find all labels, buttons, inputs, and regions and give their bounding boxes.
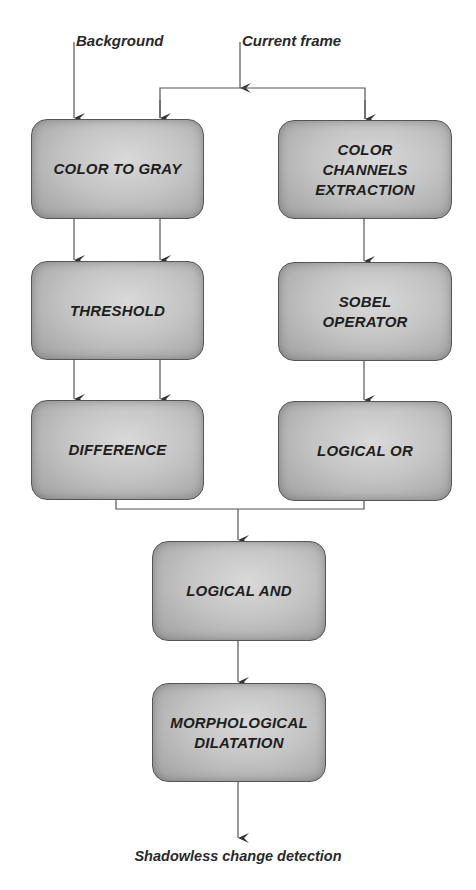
node-color-channels-extraction: COLOR CHANNELS EXTRACTION <box>278 120 452 219</box>
node-label: DIFFERENCE <box>69 440 167 460</box>
node-label: COLOR CHANNELS EXTRACTION <box>315 140 415 200</box>
node-difference: DIFFERENCE <box>31 400 204 500</box>
node-label: COLOR TO GRAY <box>54 159 182 179</box>
node-label: LOGICAL AND <box>186 581 292 601</box>
input-label-current-frame: Current frame <box>242 32 341 49</box>
node-morphological-dilatation: MORPHOLOGICAL DILATATION <box>152 683 326 782</box>
node-color-to-gray: COLOR TO GRAY <box>31 119 204 219</box>
node-logical-or: LOGICAL OR <box>278 401 452 501</box>
node-label: LOGICAL OR <box>317 441 413 461</box>
node-logical-and: LOGICAL AND <box>152 541 326 641</box>
node-label: SOBEL OPERATOR <box>322 292 407 332</box>
output-label: Shadowless change detection <box>0 848 476 864</box>
node-sobel-operator: SOBEL OPERATOR <box>278 262 452 361</box>
node-label: THRESHOLD <box>70 301 165 321</box>
node-threshold: THRESHOLD <box>31 261 204 360</box>
node-label: MORPHOLOGICAL DILATATION <box>170 713 308 753</box>
input-label-background: Background <box>76 32 164 49</box>
